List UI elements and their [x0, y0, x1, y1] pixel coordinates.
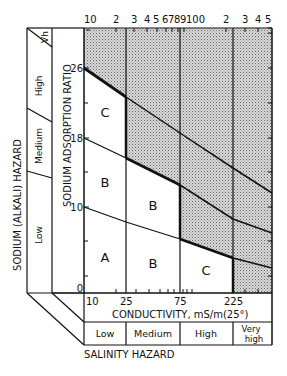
- zone-b-low: B: [101, 175, 110, 190]
- tick-label: 4: [144, 14, 150, 25]
- sodium-hazard-labels: Vh High Medium Low: [34, 31, 50, 244]
- salinity-hazard-title: SALINITY HAZARD: [84, 349, 175, 360]
- zone-c-high: C: [201, 263, 210, 278]
- zone-c-low: C: [100, 105, 109, 120]
- salinity-very-high: high: [245, 334, 264, 344]
- salinity-high: High: [195, 328, 217, 339]
- tick-label: 4: [255, 14, 261, 25]
- salinity-sodium-hazard-chart: 10 2 3 4 5 6 7 8 9 100 2 3 4 5 26 18 10 …: [0, 0, 287, 376]
- tick-label: 5: [153, 14, 159, 25]
- tick-label: 100: [186, 14, 205, 25]
- sodium-low: Low: [34, 226, 44, 244]
- x-label-75: 75: [174, 296, 187, 307]
- shaded-region: [84, 28, 272, 293]
- perspective-base: [27, 293, 84, 345]
- tick-label: 3: [131, 14, 137, 25]
- x-label-10: 10: [86, 296, 99, 307]
- sodium-high: High: [34, 76, 44, 97]
- zone-b-medium-lower: B: [149, 256, 158, 271]
- tick-label: 10: [84, 14, 97, 25]
- zone-a-low: A: [101, 250, 110, 265]
- tick-label: 2: [113, 14, 119, 25]
- salinity-medium: Medium: [134, 328, 172, 339]
- x-label-225: 225: [224, 296, 243, 307]
- sodium-vh: Vh: [40, 31, 50, 43]
- tick-label: 3: [242, 14, 248, 25]
- sodium-hazard-title: SODIUM (ALKALI) HAZARD: [12, 139, 23, 271]
- y-axis-title: SODIUM ADSORPTION RATIO: [62, 64, 73, 207]
- bottom-tick-labels: 10 25 75 225: [86, 296, 243, 307]
- x-axis-title: CONDUCTIVITY, mS/m(25°): [112, 309, 249, 320]
- y-label-0: 0: [77, 283, 83, 294]
- salinity-very: Very: [242, 324, 261, 334]
- top-tick-labels: 10 2 3 4 5 6 7 8 9 100 2 3 4 5: [84, 14, 271, 25]
- sodium-medium: Medium: [34, 128, 44, 164]
- x-label-25: 25: [120, 296, 133, 307]
- tick-label: 2: [223, 14, 229, 25]
- tick-label: 5: [265, 14, 271, 25]
- zone-b-medium-upper: B: [149, 198, 158, 213]
- salinity-low: Low: [96, 328, 115, 339]
